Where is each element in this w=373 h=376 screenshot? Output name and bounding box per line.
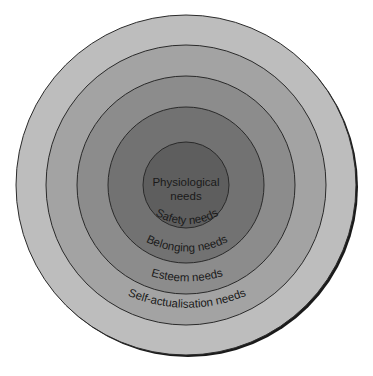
- label-physiological-line2: needs: [170, 190, 202, 202]
- needs-diagram: Self-actualisation needs Esteem needs Be…: [0, 0, 373, 376]
- label-physiological-line1: Physiological: [152, 176, 219, 188]
